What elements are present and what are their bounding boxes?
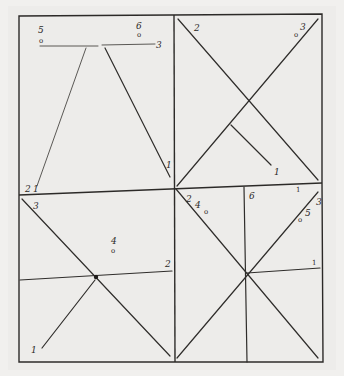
label-point: o <box>137 31 141 39</box>
label-point: 1 <box>312 259 316 267</box>
label: 3 <box>300 22 306 32</box>
label: 4 <box>194 200 201 210</box>
label: 1 <box>166 160 172 170</box>
diagram-canvas: 5 o 6 o 3 1 2 1 2 3 o 1 3 4 o 2 1 2 4 o … <box>0 0 344 376</box>
label: 2 <box>24 184 31 194</box>
label: 4 <box>110 236 117 246</box>
label: 2 <box>193 23 200 33</box>
label-point: o <box>204 208 208 216</box>
label: 6 <box>249 191 255 201</box>
label-point: 1 <box>296 186 300 194</box>
label: 1 <box>33 184 39 194</box>
label: 5 <box>305 208 311 218</box>
label: 3 <box>316 197 322 207</box>
label: 1 <box>31 345 37 355</box>
paper-sheet <box>8 6 336 370</box>
label: 5 <box>38 25 44 35</box>
label-point: o <box>39 37 43 45</box>
label: 2 <box>185 194 192 204</box>
label-point: o <box>298 216 302 224</box>
diagram-sheet: 5 o 6 o 3 1 2 1 2 3 o 1 3 4 o 2 1 2 4 o … <box>0 0 344 376</box>
label: 2 <box>164 259 171 269</box>
label: 3 <box>156 40 162 50</box>
label: 6 <box>136 21 142 31</box>
intersection-point <box>94 275 98 279</box>
label: 3 <box>33 201 39 211</box>
label-point: o <box>294 31 298 39</box>
label: 1 <box>274 167 280 177</box>
label-point: o <box>111 247 115 255</box>
